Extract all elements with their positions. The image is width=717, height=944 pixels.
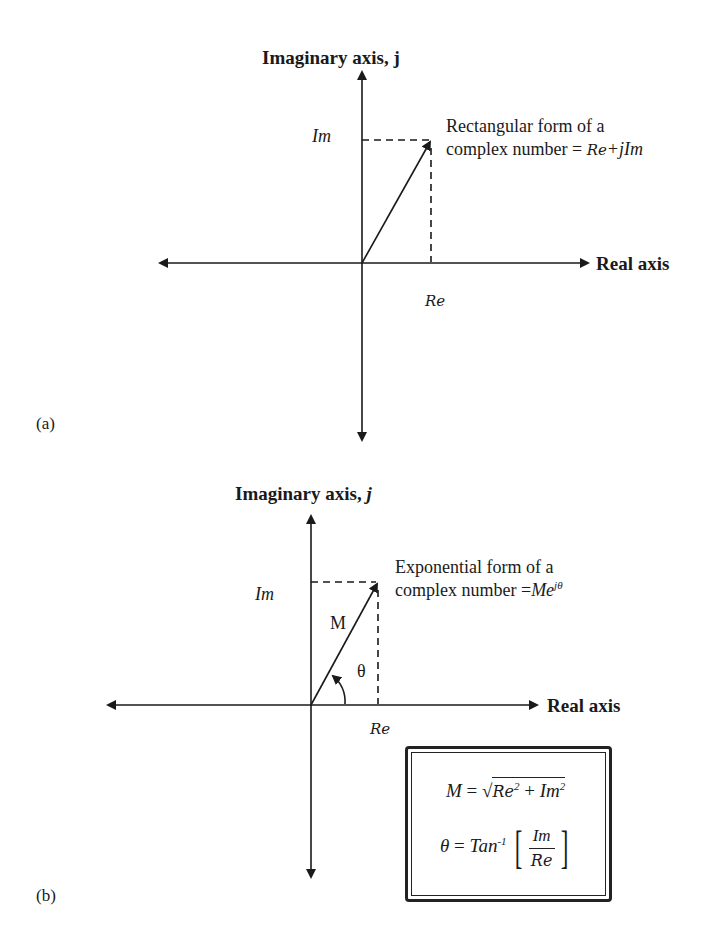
panel-a-imaginary-axis-title: Imaginary axis, j: [262, 48, 400, 67]
panel-b-description-line1: Exponential form of a: [395, 558, 553, 576]
sqrt-icon: √: [482, 780, 492, 801]
panel-a-description-line2: complex number = Re+jIm: [446, 140, 643, 158]
angle-fraction: ImRe: [529, 826, 555, 870]
panel-b-label: (b): [36, 887, 56, 904]
formula-box: M = √Re2 + Im2 θ = Tan-1 [ImRe]: [405, 746, 612, 902]
panel-a-real-axis-title: Real axis: [596, 254, 669, 273]
fraction-denominator: Re: [529, 849, 555, 870]
left-bracket: [: [515, 825, 523, 871]
radicand-im: Im: [540, 780, 560, 801]
panel-a-formula-re: Re: [587, 141, 607, 159]
radicand-re-exp: 2: [514, 780, 520, 792]
panel-a-label: (a): [36, 415, 55, 432]
panel-b-real-axis-title: Real axis: [547, 696, 620, 715]
magnitude-formula: M = √Re2 + Im2: [446, 777, 565, 802]
angle-equals: =: [454, 835, 465, 856]
panel-a-re-label: Re: [425, 294, 445, 309]
magnitude-lhs: M: [446, 780, 462, 801]
panel-b-description-line2: complex number =Mejθ: [395, 581, 563, 599]
panel-b-formula-exponent: jθ: [554, 579, 562, 591]
panel-b-imaginary-axis-title: Imaginary axis, j: [235, 484, 372, 503]
panel-b-axis-title-text: Imaginary axis,: [235, 483, 366, 504]
panel-a-formula-im: Im: [624, 139, 643, 159]
angle-fn: Tan: [470, 835, 498, 856]
panel-a-vector-arrow: [362, 142, 430, 263]
fraction-numerator: Im: [529, 826, 555, 849]
panel-b-angle-label: θ: [357, 662, 366, 680]
panel-a-formula-plus-j: +j: [607, 139, 624, 159]
angle-formula: θ = Tan-1 [ImRe]: [440, 825, 572, 871]
radicand-plus: +: [524, 780, 535, 801]
formula-box-inner-border: M = √Re2 + Im2 θ = Tan-1 [ImRe]: [411, 752, 606, 896]
panel-b-description-prefix: complex number =: [395, 580, 531, 600]
magnitude-equals: =: [467, 780, 478, 801]
panel-b-re-label: Re: [370, 722, 390, 737]
panel-b-axis-title-j: j: [366, 483, 371, 504]
panel-b-im-label: Im: [255, 585, 274, 603]
sqrt-expression: √Re2 + Im2: [482, 777, 565, 802]
panel-b-angle-arc: [333, 676, 345, 704]
panel-b-vector-arrow: [311, 584, 377, 705]
panel-a-description-prefix: complex number =: [446, 139, 587, 159]
angle-lhs: θ: [440, 835, 449, 856]
radicand-im-exp: 2: [560, 780, 566, 792]
angle-fn-exp: -1: [497, 835, 506, 847]
panel-b-magnitude-label: M: [330, 614, 346, 632]
panel-a-im-label: Im: [312, 127, 331, 145]
panel-b-formula-base: Me: [531, 580, 554, 600]
radicand-re: Re: [492, 782, 514, 801]
panel-a-description-line1: Rectangular form of a: [446, 117, 604, 135]
sqrt-radicand: Re2 + Im2: [492, 777, 565, 802]
right-bracket: ]: [560, 825, 568, 871]
